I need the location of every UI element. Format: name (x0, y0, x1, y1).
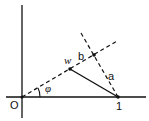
point-w (68, 67, 72, 71)
label-unit: 1 (116, 100, 122, 112)
label-a: a (108, 70, 115, 82)
label-phi: φ (45, 82, 51, 94)
label-origin: O (10, 99, 19, 111)
perpendicular-line (81, 33, 118, 97)
point-1 (116, 95, 120, 99)
point-b (92, 53, 96, 57)
label-w: w (64, 54, 72, 66)
point-origin (20, 95, 23, 98)
angle-arc-phi (38, 88, 40, 97)
geometry-diagram: O 1 w b a φ (0, 0, 149, 121)
label-b: b (78, 50, 84, 62)
